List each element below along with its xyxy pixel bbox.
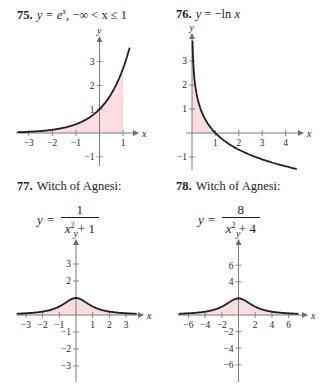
x-tick-label: 2 (107, 320, 112, 330)
y-tick-label: −1 (84, 152, 94, 162)
y-tick-label: −2 (223, 327, 233, 337)
x-tick-label: 4 (270, 320, 275, 330)
y-tick-label: 3 (66, 259, 71, 269)
chart-75-exp: xy−3−2−11−1123 (16, 25, 147, 166)
chart-77-witch-agnesi: xy−3−2−1123−3−2−123 (16, 228, 152, 382)
x-tick-label: −3 (24, 138, 34, 148)
x-tick-label: 3 (260, 138, 265, 148)
y-tick-label: 1 (182, 104, 187, 114)
graphs-canvas: xy−3−2−11−1123 xy1234−1123 xy−3−2−1123−3… (0, 0, 331, 392)
x-tick-label: 2 (253, 320, 258, 330)
x-tick-label: −6 (183, 320, 193, 330)
y-tick-label: −3 (61, 361, 71, 371)
y-tick-label: 2 (66, 276, 71, 286)
x-tick-label: −3 (21, 320, 31, 330)
y-axis-label: y (189, 22, 195, 33)
x-tick-label: 6 (286, 320, 291, 330)
x-tick-label: −2 (47, 138, 57, 148)
y-tick-label: 4 (229, 277, 234, 287)
function-curve (193, 41, 297, 168)
x-axis-label: x (310, 310, 316, 321)
y-tick-label: 2 (90, 81, 95, 91)
x-axis-label: x (306, 128, 312, 139)
x-tick-label: 1 (213, 138, 218, 148)
y-tick-label: −6 (223, 360, 233, 370)
x-axis-label: x (146, 310, 152, 321)
chart-78-witch-agnesi: xy−6−4−2246−6−4−246 (178, 228, 316, 382)
y-axis-label: y (96, 25, 102, 36)
x-tick-label: 3 (124, 320, 129, 330)
y-tick-label: 6 (229, 261, 234, 271)
x-tick-label: −1 (71, 138, 81, 148)
y-tick-label: −1 (61, 327, 71, 337)
y-tick-label: 3 (182, 56, 187, 66)
x-tick-label: 4 (283, 138, 288, 148)
x-tick-label: 1 (90, 320, 95, 330)
y-tick-label: −1 (177, 152, 187, 162)
y-tick-label: 2 (182, 80, 187, 90)
x-tick-label: −4 (200, 320, 210, 330)
chart-76-neg-ln: xy1234−1123 (177, 22, 312, 170)
x-tick-label: 2 (236, 138, 241, 148)
y-tick-label: 3 (90, 57, 95, 67)
y-tick-label: 1 (90, 105, 95, 115)
y-axis-label: y (73, 228, 79, 239)
x-tick-label: −2 (38, 320, 48, 330)
y-tick-label: −4 (223, 344, 233, 354)
y-axis-label: y (235, 228, 241, 239)
x-axis-label: x (141, 128, 147, 139)
x-tick-label: 1 (121, 138, 126, 148)
y-tick-label: −2 (61, 344, 71, 354)
